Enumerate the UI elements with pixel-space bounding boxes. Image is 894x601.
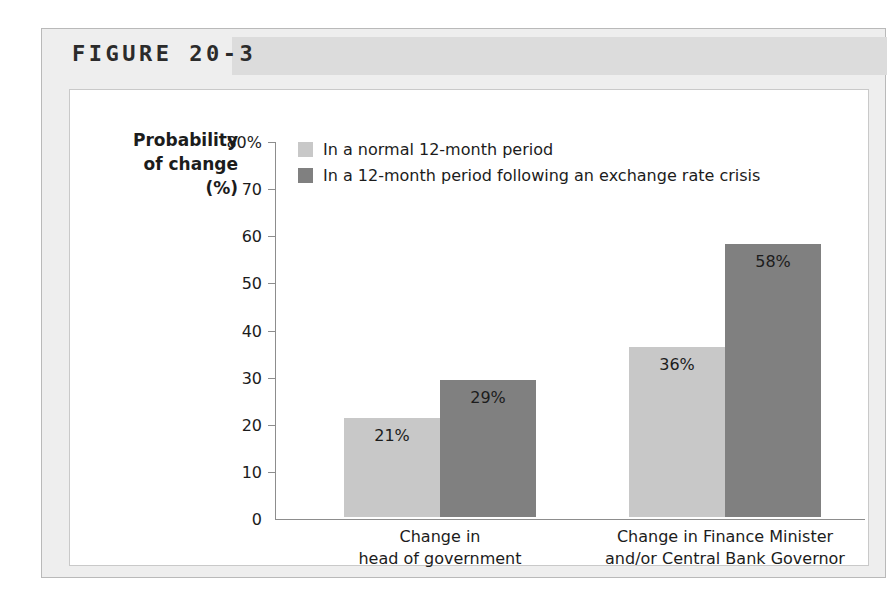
bar-value-label: 36% — [629, 355, 725, 374]
y-axis-tick-30 — [268, 378, 275, 379]
y-axis-tick-label-0: 0 — [202, 510, 262, 529]
legend-swatch-dark — [298, 168, 313, 183]
legend-item-crisis-period: In a 12-month period following an exchan… — [298, 162, 760, 188]
y-axis-line — [275, 142, 276, 520]
figure-title-band: FIGURE 20-3 — [42, 37, 887, 75]
y-axis-tick-label-10: 10 — [202, 462, 262, 481]
y-axis-tick-50 — [268, 283, 275, 284]
category-label-line-1: Change in Finance Minister — [545, 526, 894, 548]
bar-value-label: 29% — [440, 388, 536, 407]
bar-dark-group-1: 29% — [440, 380, 536, 517]
y-axis-tick-label-50: 50 — [202, 274, 262, 293]
figure-card: FIGURE 20-3 Probability of change (%) 80… — [41, 28, 886, 578]
title-band-fill — [232, 37, 887, 75]
bar-light-group-1: 21% — [344, 418, 440, 517]
y-axis-tick-label-70: 70 — [202, 180, 262, 199]
y-axis-tick-40 — [268, 331, 275, 332]
legend-item-normal-period: In a normal 12-month period — [298, 136, 760, 162]
bar-dark-group-2: 58% — [725, 244, 821, 517]
x-axis-category-label-2: Change in Finance Ministerand/or Central… — [545, 526, 894, 570]
y-axis-tick-label-60: 60 — [202, 227, 262, 246]
bar-value-label: 58% — [725, 252, 821, 271]
chart-legend: In a normal 12-month period In a 12-mont… — [298, 136, 760, 188]
bar-light-group-2: 36% — [629, 347, 725, 517]
legend-label-crisis-period: In a 12-month period following an exchan… — [323, 166, 760, 185]
y-axis-tick-70 — [268, 189, 275, 190]
y-axis-tick-labels: 80%706050403020100 — [200, 90, 262, 567]
chart-panel: Probability of change (%) 80%70605040302… — [69, 89, 869, 566]
y-axis-tick-label-80: 80% — [202, 133, 262, 152]
x-axis-line — [275, 519, 865, 520]
y-axis-tick-label-30: 30 — [202, 368, 262, 387]
y-axis-tick-10 — [268, 472, 275, 473]
y-axis-tick-60 — [268, 236, 275, 237]
y-axis-tick-label-20: 20 — [202, 415, 262, 434]
legend-swatch-light — [298, 142, 313, 157]
bar-value-label: 21% — [344, 426, 440, 445]
figure-title: FIGURE 20-3 — [72, 41, 256, 66]
y-axis-tick-label-40: 40 — [202, 321, 262, 340]
category-label-line-2: and/or Central Bank Governor — [545, 548, 894, 570]
y-axis-tick-80 — [268, 142, 275, 143]
y-axis-tick-20 — [268, 425, 275, 426]
legend-label-normal-period: In a normal 12-month period — [323, 140, 553, 159]
